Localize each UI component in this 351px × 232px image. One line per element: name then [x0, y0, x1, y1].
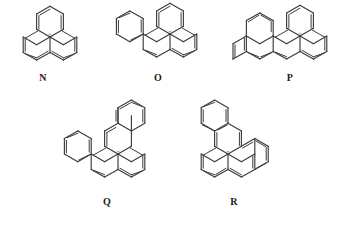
structure-R-drawing: + — [184, 104, 296, 196]
structure-Q: + — [56, 104, 168, 196]
structure-R-bonds — [201, 100, 268, 177]
charge-plus-N: + — [48, 31, 52, 39]
charge-plus-Q: + — [116, 148, 120, 156]
structure-P-bonds — [233, 5, 327, 67]
structure-O-drawing: + · — [108, 4, 208, 74]
structure-label-P: P — [270, 72, 310, 83]
structure-P: + — [232, 4, 344, 74]
structure-Q-bonds — [64, 100, 144, 177]
charge-plus-P: + — [298, 30, 302, 38]
structure-label-N: N — [23, 72, 63, 83]
chemical-structures-figure: + N — [0, 0, 351, 232]
structure-O-bonds — [116, 3, 196, 57]
structure-N-drawing: + — [12, 4, 88, 72]
structure-N: + — [12, 4, 88, 72]
structure-R: + — [184, 104, 296, 196]
structure-label-O: O — [138, 72, 178, 83]
structure-P-drawing: + — [232, 4, 344, 74]
structure-Q-drawing: + — [56, 104, 168, 196]
structure-label-Q: Q — [87, 196, 127, 207]
structure-O: + · — [108, 4, 208, 74]
structure-label-R: R — [214, 196, 254, 207]
charge-plus-O: + — [168, 28, 172, 36]
charge-plus-R: + — [226, 148, 230, 156]
